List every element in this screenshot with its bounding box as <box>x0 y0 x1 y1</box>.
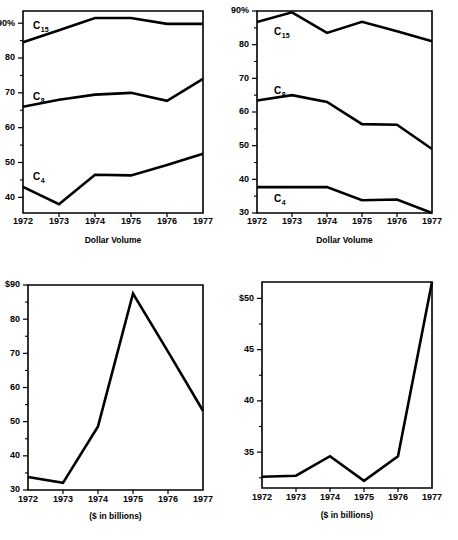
x-axis-title: ($ in billions) <box>89 511 142 521</box>
x-tick-label: 1972 <box>18 494 38 504</box>
series-line-C8 <box>23 79 203 107</box>
y-tick-label: 50 <box>5 157 15 167</box>
y-tick-label: 60 <box>10 382 20 392</box>
y-tick-label: 70 <box>239 73 249 83</box>
series-line-C4 <box>23 154 203 205</box>
y-tick-label: 60 <box>5 122 15 132</box>
x-tick-label: 1973 <box>286 492 306 502</box>
x-tick-label: 1973 <box>49 216 69 226</box>
x-tick-label: 1974 <box>85 216 105 226</box>
y-tick-label: 30 <box>10 484 20 494</box>
x-tick-label: 1975 <box>123 494 143 504</box>
y-tick-label: 80 <box>10 314 20 324</box>
x-tick-label: 1975 <box>352 216 372 226</box>
chart-bottom-right-canvas: $50454035197219731974197519761977($ in b… <box>229 268 458 530</box>
x-tick-label: 1974 <box>88 494 108 504</box>
x-tick-label: 1977 <box>422 492 442 502</box>
x-axis-title: ($ in billions) <box>321 510 374 520</box>
y-tick-label: 50 <box>239 140 249 150</box>
x-tick-label: 1974 <box>320 492 340 502</box>
x-tick-label: 1977 <box>193 494 213 504</box>
y-tick-label: 80 <box>239 39 249 49</box>
x-tick-label: 1974 <box>317 216 337 226</box>
series-line-total-dollar-volume <box>262 282 432 481</box>
x-tick-label: 1976 <box>388 492 408 502</box>
series-line-total-dollar-volume <box>28 294 203 483</box>
y-tick-label: 40 <box>244 395 254 405</box>
y-tick-label: 70 <box>10 348 20 358</box>
chart-top-left: 90%8070605040197219731974197519761977C15… <box>0 0 229 250</box>
y-tick-label: 90% <box>231 5 249 15</box>
series-label-C8: C8 <box>33 91 45 104</box>
x-tick-label: 1976 <box>158 494 178 504</box>
x-tick-label: 1972 <box>13 216 33 226</box>
y-tick-label: 40 <box>239 174 249 184</box>
x-tick-label: 1977 <box>193 216 213 226</box>
y-tick-label: $90 <box>5 279 20 289</box>
x-tick-label: 1973 <box>53 494 73 504</box>
x-tick-label: 1976 <box>157 216 177 226</box>
y-tick-label: 90% <box>0 18 15 28</box>
y-tick-label: 60 <box>239 106 249 116</box>
x-tick-label: 1975 <box>121 216 141 226</box>
y-tick-label: 40 <box>10 450 20 460</box>
y-tick-label: 50 <box>10 416 20 426</box>
y-tick-label: 70 <box>5 87 15 97</box>
y-tick-label: 80 <box>5 52 15 62</box>
x-tick-label: 1972 <box>252 492 272 502</box>
chart-top-right: 90%807060504030197219731974197519761977C… <box>229 0 458 250</box>
x-axis-title: Dollar Volume <box>316 235 373 245</box>
y-tick-label: 35 <box>244 447 254 457</box>
x-tick-label: 1975 <box>354 492 374 502</box>
series-label-C4: C4 <box>274 193 286 206</box>
chart-top-left-canvas: 90%8070605040197219731974197519761977C15… <box>0 0 229 250</box>
chart-bottom-left: $90807060504030197219731974197519761977(… <box>0 268 229 530</box>
chart-bottom-left-canvas: $90807060504030197219731974197519761977(… <box>0 268 229 530</box>
x-tick-label: 1976 <box>387 216 407 226</box>
series-label-C15: C15 <box>274 26 290 39</box>
chart-top-right-canvas: 90%807060504030197219731974197519761977C… <box>229 0 458 250</box>
chart-page: 90%8070605040197219731974197519761977C15… <box>0 0 458 540</box>
x-tick-label: 1972 <box>247 216 267 226</box>
chart-bottom-right: $50454035197219731974197519761977($ in b… <box>229 268 458 530</box>
series-line-C15 <box>23 18 203 42</box>
y-tick-label: $50 <box>239 293 254 303</box>
y-tick-label: 45 <box>244 344 254 354</box>
x-axis-title: Dollar Volume <box>85 235 142 245</box>
series-label-C4: C4 <box>33 171 45 184</box>
y-tick-label: 40 <box>5 192 15 202</box>
series-label-C15: C15 <box>33 20 49 33</box>
series-line-C8 <box>257 95 432 149</box>
x-tick-label: 1973 <box>282 216 302 226</box>
x-tick-label: 1977 <box>422 216 442 226</box>
